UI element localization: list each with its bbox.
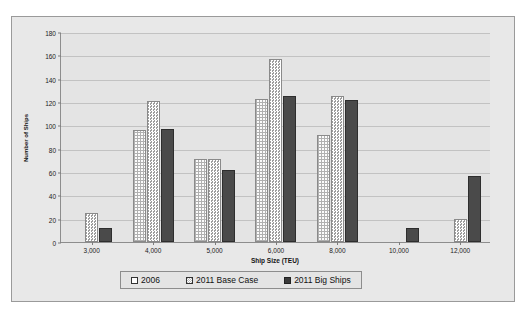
y-axis-title-text: Number of Ships bbox=[23, 114, 29, 162]
bar-2011-base-case-4000[interactable] bbox=[147, 101, 160, 242]
legend-label: 2011 Base Case bbox=[196, 275, 258, 285]
x-axis-title: Ship Size (TEU) bbox=[60, 257, 490, 264]
y-tick-label: 0 bbox=[52, 240, 56, 247]
x-tick-mark bbox=[337, 242, 338, 245]
x-tick-label: 8,000 bbox=[329, 247, 345, 254]
plot-area: 0204060801001201401601803,0004,0005,0006… bbox=[60, 33, 490, 243]
x-tick-label: 12,000 bbox=[450, 247, 470, 254]
legend-swatch-icon bbox=[131, 277, 138, 284]
legend-item-2011-big-ships[interactable]: 2011 Big Ships bbox=[284, 275, 351, 285]
y-tick-label: 20 bbox=[49, 216, 56, 223]
y-tick-label: 160 bbox=[45, 53, 56, 60]
bar-2011-big-ships-6000[interactable] bbox=[283, 96, 296, 242]
y-tick-mark bbox=[58, 243, 61, 244]
chart-legend: 20062011 Base Case2011 Big Ships bbox=[120, 271, 362, 289]
bar-2011-big-ships-8000[interactable] bbox=[345, 100, 358, 242]
bar-group bbox=[184, 33, 245, 242]
bar-2011-base-case-5000[interactable] bbox=[208, 159, 221, 242]
bar-2006-8000[interactable] bbox=[317, 135, 330, 242]
bar-group bbox=[122, 33, 183, 242]
y-tick-label: 120 bbox=[45, 100, 56, 107]
x-tick-label: 4,000 bbox=[145, 247, 161, 254]
y-tick-label: 60 bbox=[49, 170, 56, 177]
x-tick-mark bbox=[276, 242, 277, 245]
bar-2011-big-ships-10000[interactable] bbox=[406, 228, 419, 242]
bar-group bbox=[368, 33, 429, 242]
bar-2011-big-ships-3000[interactable] bbox=[99, 228, 112, 242]
bar-2006-5000[interactable] bbox=[194, 159, 207, 242]
x-tick-label: 6,000 bbox=[268, 247, 284, 254]
x-tick-label: 5,000 bbox=[206, 247, 222, 254]
bar-group bbox=[245, 33, 306, 242]
x-tick-mark bbox=[92, 242, 93, 245]
y-tick-label: 100 bbox=[45, 123, 56, 130]
bar-2006-4000[interactable] bbox=[133, 130, 146, 242]
bar-2011-big-ships-5000[interactable] bbox=[222, 170, 235, 242]
bar-2011-big-ships-12000[interactable] bbox=[468, 176, 481, 243]
legend-item-2006[interactable]: 2006 bbox=[131, 275, 160, 285]
bar-2011-big-ships-4000[interactable] bbox=[161, 129, 174, 242]
bar-2011-base-case-12000[interactable] bbox=[454, 219, 467, 242]
x-tick-mark bbox=[460, 242, 461, 245]
y-tick-label: 180 bbox=[45, 30, 56, 37]
chart-frame: Number of Ships 020406080100120140160180… bbox=[11, 16, 515, 302]
bar-2011-base-case-8000[interactable] bbox=[331, 96, 344, 242]
y-axis-title: Number of Ships bbox=[20, 33, 32, 243]
y-tick-label: 40 bbox=[49, 193, 56, 200]
x-tick-mark bbox=[399, 242, 400, 245]
x-tick-mark bbox=[153, 242, 154, 245]
bar-group bbox=[61, 33, 122, 242]
bar-group bbox=[307, 33, 368, 242]
bar-2006-6000[interactable] bbox=[255, 99, 268, 243]
y-tick-label: 140 bbox=[45, 76, 56, 83]
bar-2011-base-case-6000[interactable] bbox=[269, 59, 282, 242]
bar-2011-base-case-3000[interactable] bbox=[85, 213, 98, 242]
y-tick-label: 80 bbox=[49, 146, 56, 153]
legend-swatch-icon bbox=[284, 277, 291, 284]
legend-swatch-icon bbox=[186, 277, 193, 284]
bar-group bbox=[430, 33, 491, 242]
x-tick-label: 10,000 bbox=[389, 247, 409, 254]
x-tick-label: 3,000 bbox=[84, 247, 100, 254]
legend-item-2011-base-case[interactable]: 2011 Base Case bbox=[186, 275, 258, 285]
legend-label: 2006 bbox=[141, 275, 160, 285]
legend-label: 2011 Big Ships bbox=[294, 275, 351, 285]
x-tick-mark bbox=[215, 242, 216, 245]
